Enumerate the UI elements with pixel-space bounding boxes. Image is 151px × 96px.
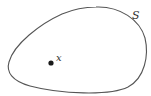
set-boundary-curve [8,7,146,93]
set-diagram: x S [0,0,151,96]
set-label: S [132,9,140,22]
point-marker [48,60,53,65]
point-label: x [56,52,62,63]
